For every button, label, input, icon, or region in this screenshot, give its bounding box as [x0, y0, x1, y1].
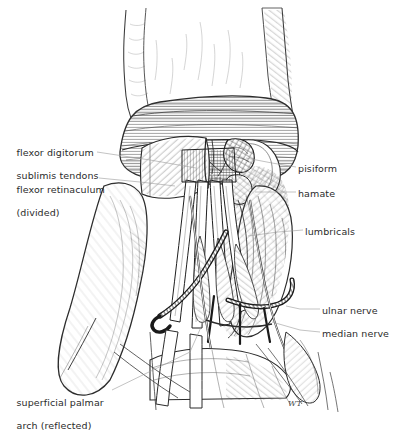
label-superficial-palmar-arch-reflected: superficial palmar arch (reflected): [4, 385, 104, 436]
label-hamate: hamate: [298, 188, 335, 200]
label-ulnar-nerve: ulnar nerve: [322, 305, 378, 317]
label-median-nerve: median nerve: [322, 328, 389, 340]
artist-signature: WT: [288, 399, 302, 408]
label-line-1: flexor digitorum: [16, 147, 93, 158]
label-lumbricals: lumbricals: [305, 226, 355, 238]
label-line-1: flexor retinaculum: [16, 184, 104, 195]
anatomical-illustration: flexor digitorum sublimis tendons flexor…: [0, 0, 394, 436]
label-flexor-retinaculum-divided: flexor retinaculum (divided): [4, 172, 105, 230]
label-line-2: (divided): [16, 207, 59, 218]
label-line-2: arch (reflected): [16, 420, 91, 431]
label-line-1: superficial palmar: [16, 397, 103, 408]
tendon-sheath-hatch: [182, 150, 234, 182]
label-pisiform: pisiform: [298, 163, 337, 175]
